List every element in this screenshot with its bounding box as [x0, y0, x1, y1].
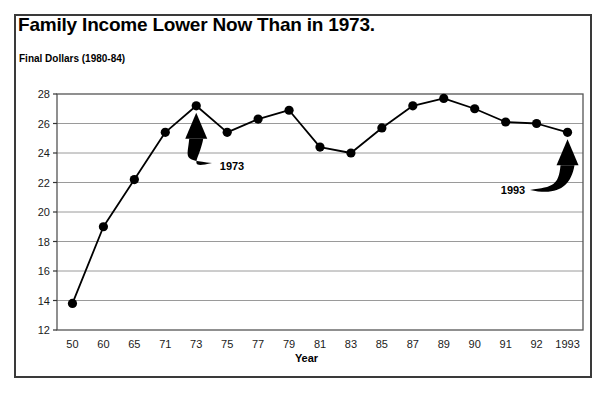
chart-frame [14, 14, 592, 378]
x-axis-title: Year [0, 352, 613, 364]
chart-subtitle: Final Dollars (1980-84) [19, 53, 125, 64]
page-title: Family Income Lower Now Than in 1973. [18, 14, 375, 36]
